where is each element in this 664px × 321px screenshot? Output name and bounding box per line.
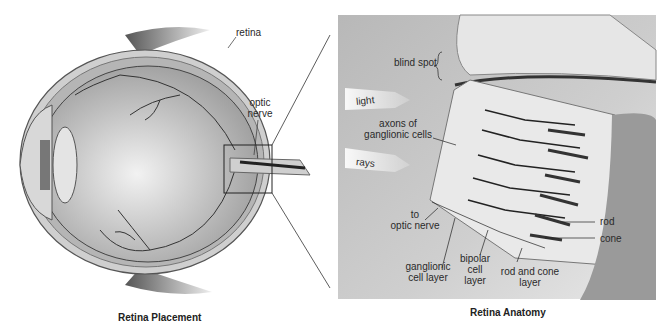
label-optic-nerve-line2: nerve [245, 108, 275, 119]
label-to-optic-nerve: to optic nerve [385, 209, 445, 231]
label-light: light [355, 94, 374, 107]
label-cone: cone [600, 233, 622, 244]
label-axons: axons of ganglionic cells [356, 118, 440, 140]
label-rodcone-line1: rod and cone [495, 266, 565, 277]
label-bipolar-line3: layer [455, 275, 495, 286]
label-bipolar-line1: bipolar [455, 253, 495, 264]
label-ganglionic-layer: ganglionic cell layer [400, 261, 456, 283]
label-bipolar-line2: cell [455, 264, 495, 275]
zoom-line-top [272, 35, 330, 145]
retina-anatomy-illustration [338, 15, 656, 300]
zoom-line-bottom [272, 193, 330, 288]
label-optic-nerve: optic nerve [245, 97, 275, 119]
caption-retina-anatomy: Retina Anatomy [470, 307, 546, 318]
eyeball [20, 27, 310, 294]
label-blind-spot: blind spot [394, 57, 437, 68]
label-axons-line1: axons of [356, 118, 440, 129]
label-rod: rod [600, 216, 614, 227]
label-to-optic-line1: to [385, 209, 445, 220]
label-bipolar-layer: bipolar cell layer [455, 253, 495, 286]
label-ganglionic-line1: ganglionic [400, 261, 456, 272]
label-to-optic-line2: optic nerve [385, 220, 445, 231]
retina-leader [228, 37, 236, 48]
label-axons-line2: ganglionic cells [356, 129, 440, 140]
label-rod-cone-layer: rod and cone layer [495, 266, 565, 288]
label-rodcone-line2: layer [495, 277, 565, 288]
label-ganglionic-line2: cell layer [400, 272, 456, 283]
label-optic-nerve-line1: optic [245, 97, 275, 108]
caption-retina-placement: Retina Placement [118, 312, 201, 321]
label-retina: retina [236, 27, 261, 38]
label-rays: rays [355, 156, 375, 169]
